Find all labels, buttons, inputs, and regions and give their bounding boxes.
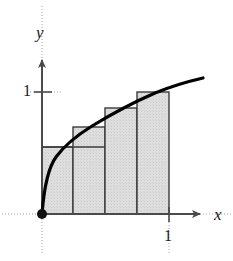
figure-canvas [0, 0, 233, 261]
riemann-rectangle-3 [105, 108, 137, 214]
x-axis-tick-label-1: 1 [164, 228, 172, 244]
riemann-sum-figure: y x 1 1 [0, 0, 233, 261]
y-axis-tick-label-1: 1 [23, 83, 31, 99]
riemann-rectangle-4 [137, 92, 169, 214]
riemann-rectangle-2 [73, 127, 105, 214]
origin-point-marker [37, 209, 47, 219]
y-axis-label: y [36, 24, 44, 41]
x-axis-label: x [214, 206, 222, 223]
